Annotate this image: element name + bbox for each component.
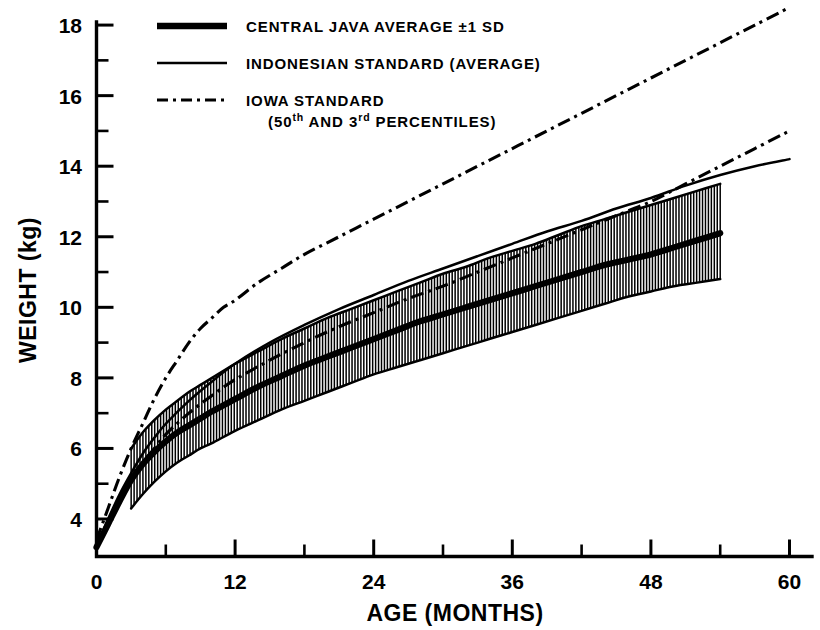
- iowa-pct-pre: (50: [268, 113, 292, 130]
- sd-band-hatching: [131, 184, 720, 509]
- legend: CENTRAL JAVA AVERAGE ±1 SD INDONESIAN ST…: [157, 18, 541, 130]
- y-axis-ticks: [97, 25, 114, 519]
- y-tick-label: 8: [70, 367, 82, 390]
- chart-svg: 4681012141618 01224364860 WEIGHT (kg) AG…: [0, 0, 820, 630]
- x-axis-ticks: [97, 540, 790, 557]
- axis-lines: [97, 22, 813, 557]
- x-axis-title: AGE (MONTHS): [366, 600, 543, 626]
- x-tick-label: 0: [91, 570, 103, 593]
- y-tick-label: 4: [70, 508, 82, 531]
- iowa-pct-mid: AND 3: [304, 113, 358, 130]
- y-tick-label: 12: [59, 226, 82, 249]
- iowa-pct-sup-3rd: rd: [358, 111, 370, 123]
- y-tick-label: 16: [59, 85, 82, 108]
- iowa-pct-post: PERCENTILES): [370, 113, 496, 130]
- y-tick-label: 14: [59, 155, 83, 178]
- legend-label-indonesian-standard: INDONESIAN STANDARD (AVERAGE): [246, 55, 541, 72]
- legend-label-iowa-percentiles: (50th AND 3rd PERCENTILES): [268, 111, 496, 130]
- y-tick-label: 18: [59, 14, 83, 37]
- x-tick-label: 60: [778, 570, 801, 593]
- y-axis-tick-labels: 4681012141618: [59, 14, 83, 531]
- y-tick-label: 10: [59, 296, 82, 319]
- axes-group: 4681012141618 01224364860: [59, 14, 812, 593]
- y-tick-label: 6: [70, 437, 82, 460]
- y-axis-title: WEIGHT (kg): [15, 217, 41, 363]
- iowa-pct-sup-50th: th: [292, 111, 304, 123]
- legend-label-central-java: CENTRAL JAVA AVERAGE ±1 SD: [246, 18, 505, 35]
- x-axis-tick-labels: 01224364860: [91, 570, 802, 593]
- x-tick-label: 24: [362, 570, 386, 593]
- x-tick-label: 48: [639, 570, 663, 593]
- growth-chart-figure: 4681012141618 01224364860 WEIGHT (kg) AG…: [0, 0, 820, 630]
- x-tick-label: 12: [223, 570, 246, 593]
- legend-label-iowa-standard: IOWA STANDARD: [246, 92, 384, 109]
- x-tick-label: 36: [501, 570, 524, 593]
